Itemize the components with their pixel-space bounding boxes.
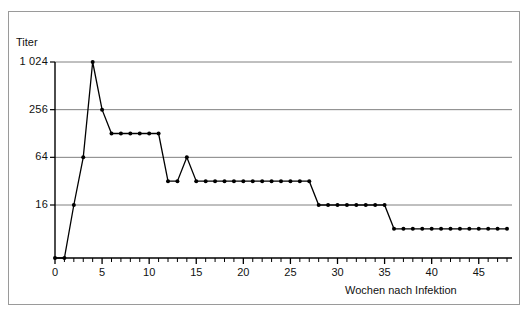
data-point — [420, 227, 424, 231]
data-point — [241, 179, 245, 183]
x-tick-label: 15 — [176, 266, 216, 278]
data-point — [100, 108, 104, 112]
data-point — [223, 179, 227, 183]
data-point — [279, 179, 283, 183]
data-point — [430, 227, 434, 231]
data-point — [62, 256, 66, 260]
x-tick-label: 35 — [365, 266, 405, 278]
data-point — [364, 203, 368, 207]
data-point — [138, 132, 142, 136]
data-point — [439, 227, 443, 231]
x-axis-title: Wochen nach Infektion — [345, 284, 457, 296]
data-point — [81, 155, 85, 159]
data-point — [260, 179, 264, 183]
data-point — [496, 227, 500, 231]
data-point — [477, 227, 481, 231]
x-tick-label: 45 — [459, 266, 499, 278]
data-point — [185, 155, 189, 159]
data-point — [175, 179, 179, 183]
data-point — [298, 179, 302, 183]
x-tick-label: 40 — [412, 266, 452, 278]
data-point — [270, 179, 274, 183]
data-point — [157, 132, 161, 136]
data-point — [467, 227, 471, 231]
data-point — [354, 203, 358, 207]
data-point — [204, 179, 208, 183]
data-point — [486, 227, 490, 231]
data-point — [119, 132, 123, 136]
x-tick-label: 30 — [318, 266, 358, 278]
data-point — [288, 179, 292, 183]
data-point — [147, 132, 151, 136]
data-point — [411, 227, 415, 231]
data-point — [336, 203, 340, 207]
x-tick-label: 20 — [223, 266, 263, 278]
x-tick-label: 10 — [129, 266, 169, 278]
y-tick-label: 256 — [29, 103, 48, 115]
data-point — [458, 227, 462, 231]
data-point — [383, 203, 387, 207]
y-tick-label: 1 024 — [19, 55, 48, 67]
data-point — [326, 203, 330, 207]
data-point — [392, 227, 396, 231]
data-point — [91, 60, 95, 64]
data-point — [345, 203, 349, 207]
data-point — [373, 203, 377, 207]
x-tick-label: 5 — [82, 266, 122, 278]
data-point — [194, 179, 198, 183]
data-point — [166, 179, 170, 183]
data-point — [128, 132, 132, 136]
y-tick-label: 64 — [35, 150, 48, 162]
data-point — [110, 132, 114, 136]
x-tick-label: 25 — [270, 266, 310, 278]
data-point — [232, 179, 236, 183]
data-point — [53, 256, 57, 260]
data-point — [72, 203, 76, 207]
data-point — [307, 179, 311, 183]
data-point — [317, 203, 321, 207]
y-tick-label: 16 — [35, 198, 48, 210]
data-point — [213, 179, 217, 183]
x-tick-label: 0 — [35, 266, 75, 278]
data-point — [401, 227, 405, 231]
data-point — [505, 227, 509, 231]
data-point — [449, 227, 453, 231]
data-point — [251, 179, 255, 183]
